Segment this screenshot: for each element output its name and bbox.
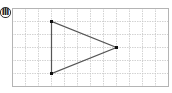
vertex-point xyxy=(115,46,118,49)
vertex-point xyxy=(50,20,53,23)
vertex-point xyxy=(50,72,53,75)
grid-lines xyxy=(12,8,168,86)
grid-diagram xyxy=(0,0,172,93)
triangle xyxy=(52,22,117,74)
